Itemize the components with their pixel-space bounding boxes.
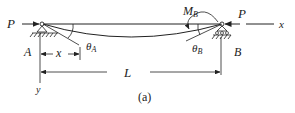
figure-caption: (a) [138, 90, 151, 104]
span-label: L [123, 65, 131, 80]
x-axis-label: x [278, 18, 284, 30]
moment-label: MB [182, 4, 198, 19]
support-b-label: B [234, 45, 242, 59]
tangent-line-a [43, 24, 79, 45]
right-load-label: P [237, 6, 246, 21]
beam-diagram: P θA y A x L [0, 0, 295, 113]
y-axis-label: y [35, 84, 41, 95]
left-load-label: P [6, 16, 15, 31]
theta-b-label: θB [192, 42, 202, 56]
deflection-curve [43, 24, 222, 37]
x-dimension-label: x [55, 46, 62, 60]
support-a-label: A [23, 45, 32, 59]
theta-a-label: θA [86, 40, 96, 54]
